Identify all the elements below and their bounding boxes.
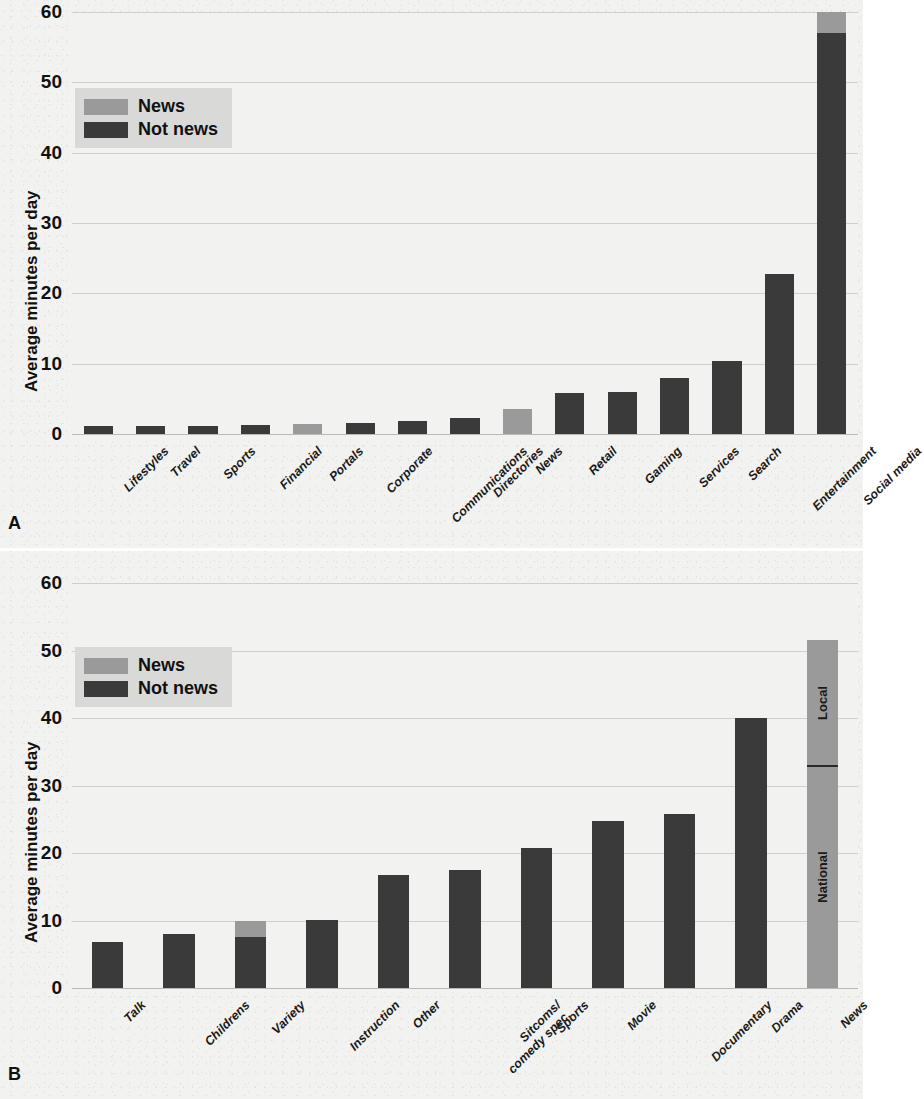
bar-segment-not-news	[608, 392, 637, 434]
x-axis-tick-label: Documentary	[709, 998, 776, 1065]
bar-segment-news	[235, 921, 266, 938]
gridline	[72, 293, 858, 294]
x-axis-tick-label: Search	[745, 444, 785, 484]
x-axis-tick-label: Childrens	[202, 998, 253, 1049]
x-axis-line	[72, 434, 858, 435]
y-axis-tick-label: 40	[18, 142, 62, 164]
legend-swatch-not-news-icon	[84, 681, 128, 697]
legend-label-not-news: Not news	[138, 678, 218, 699]
y-axis-tick-label: 30	[18, 212, 62, 234]
y-axis-tick-label: 0	[18, 977, 62, 999]
x-axis-line	[72, 988, 858, 989]
bar-travel[interactable]	[136, 426, 165, 434]
bar-segment-not-news	[592, 821, 623, 988]
bar-segment-not-news	[188, 426, 217, 434]
bar-segment-not-news	[163, 934, 194, 988]
chart-a-legend: News Not news	[75, 88, 232, 148]
bar-segment-news	[293, 424, 322, 434]
x-axis-tick-label: Movie	[624, 998, 659, 1033]
bar-documentary[interactable]	[664, 814, 695, 988]
y-axis-tick-label: 0	[18, 423, 62, 445]
bar-sitcoms-comedy-spec[interactable]	[449, 870, 480, 988]
gridline	[72, 82, 858, 83]
bar-segment-not-news	[92, 942, 123, 988]
bar-financial[interactable]	[241, 425, 270, 434]
bar-segment-not-news	[449, 870, 480, 988]
y-axis-tick-label: 50	[18, 640, 62, 662]
bar-movie[interactable]	[592, 821, 623, 988]
y-axis-tick-label: 20	[18, 282, 62, 304]
bar-annotation-local: Local	[815, 686, 830, 720]
bar-gaming[interactable]	[608, 392, 637, 434]
bar-news[interactable]: NationalLocal	[807, 640, 838, 988]
bar-drama[interactable]	[735, 718, 766, 988]
gridline	[72, 583, 858, 584]
bar-news[interactable]	[503, 409, 532, 434]
bar-segment-not-news	[664, 814, 695, 988]
bar-talk[interactable]	[92, 942, 123, 988]
panel-letter-b: B	[8, 1064, 21, 1085]
y-axis-tick-label: 60	[18, 572, 62, 594]
bar-communications[interactable]	[398, 421, 427, 434]
x-axis-tick-label: Corporate	[384, 444, 436, 496]
legend-row-news: News	[84, 654, 218, 677]
bar-sports[interactable]	[521, 848, 552, 988]
bar-segment-not-news	[765, 274, 794, 434]
bar-entertainment[interactable]	[765, 274, 794, 434]
chart-b-legend: News Not news	[75, 647, 232, 707]
bar-segment-not-news	[735, 718, 766, 988]
bar-segment-not-news	[136, 426, 165, 434]
bar-instruction[interactable]	[306, 920, 337, 988]
chart-b-plot-area: 0102030405060NationalLocal	[72, 583, 858, 988]
bar-segment-news	[817, 12, 846, 33]
bar-search[interactable]	[712, 361, 741, 434]
legend-swatch-news-icon	[84, 658, 128, 674]
bar-segment-not-news	[712, 361, 741, 434]
gridline	[72, 153, 858, 154]
bar-segment-not-news	[346, 423, 375, 434]
bar-corporate[interactable]	[346, 423, 375, 434]
bar-social-media[interactable]	[817, 12, 846, 434]
x-axis-tick-label: Financial	[277, 444, 325, 492]
bar-segment-not-news	[660, 378, 689, 434]
y-axis-tick-label: 20	[18, 842, 62, 864]
legend-row-not-news: Not news	[84, 118, 218, 141]
x-axis-tick-label: Lifestyles	[121, 444, 172, 495]
x-axis-tick-label: Travel	[167, 444, 203, 480]
gridline	[72, 12, 858, 13]
bar-sports[interactable]	[188, 426, 217, 434]
bar-annotation-national: National	[815, 851, 830, 902]
bar-portals[interactable]	[293, 424, 322, 434]
bar-segment-not-news	[306, 920, 337, 988]
x-axis-tick-label: Other	[409, 998, 443, 1032]
bar-retail[interactable]	[555, 393, 584, 434]
chart-a-plot-area: 0102030405060	[72, 12, 858, 434]
bar-segment-not-news	[235, 937, 266, 988]
legend-label-news: News	[138, 655, 185, 676]
x-axis-tick-label: Drama	[768, 998, 806, 1036]
x-axis-tick-label: Gaming	[642, 444, 685, 487]
legend-swatch-not-news-icon	[84, 122, 128, 138]
x-axis-tick-label: Services	[696, 444, 743, 491]
bar-directories[interactable]	[450, 418, 479, 434]
panel-letter-a: A	[8, 513, 21, 534]
bar-segment-not-news	[241, 425, 270, 434]
bar-segment-divider	[807, 765, 838, 767]
bar-variety[interactable]	[235, 921, 266, 989]
x-axis-tick-label: Talk	[121, 998, 149, 1026]
y-axis-tick-label: 10	[18, 353, 62, 375]
gridline	[72, 223, 858, 224]
legend-label-news: News	[138, 96, 185, 117]
bar-childrens[interactable]	[163, 934, 194, 988]
chart-panel-a: Online (mobile + desktop) media consumpt…	[0, 0, 863, 548]
bar-segment-not-news	[398, 421, 427, 434]
bar-services[interactable]	[660, 378, 689, 434]
bar-other[interactable]	[378, 875, 409, 988]
y-axis-tick-label: 10	[18, 910, 62, 932]
y-axis-tick-label: 50	[18, 71, 62, 93]
x-axis-tick-label: Variety	[269, 998, 308, 1037]
y-axis-tick-label: 30	[18, 775, 62, 797]
x-axis-tick-label: Instruction	[347, 998, 403, 1054]
bar-lifestyles[interactable]	[84, 426, 113, 434]
